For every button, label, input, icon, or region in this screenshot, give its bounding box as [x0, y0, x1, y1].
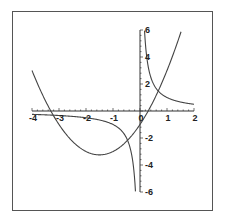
hyperbola-left-curve	[32, 114, 135, 191]
y-tick-label: 6	[145, 25, 150, 35]
y-tick-label: 4	[145, 52, 150, 62]
x-tick-label: -3	[56, 113, 64, 123]
y-tick-label: 2	[145, 79, 150, 89]
parabola-curve	[32, 32, 181, 155]
axes	[32, 30, 194, 192]
plot-area: -4-3-2-1012-6-4-2246	[0, 0, 227, 222]
y-tick-label: -6	[145, 187, 153, 197]
x-tick-label: -2	[83, 113, 91, 123]
y-tick-label: -4	[145, 160, 153, 170]
x-tick-label: 2	[192, 113, 197, 123]
hyperbola-right-curve	[145, 31, 194, 105]
x-tick-label: -1	[110, 113, 118, 123]
x-tick-label: 0	[138, 113, 143, 123]
x-tick-label: -4	[29, 113, 37, 123]
y-tick-label: -2	[145, 133, 153, 143]
x-tick-label: 1	[165, 113, 170, 123]
